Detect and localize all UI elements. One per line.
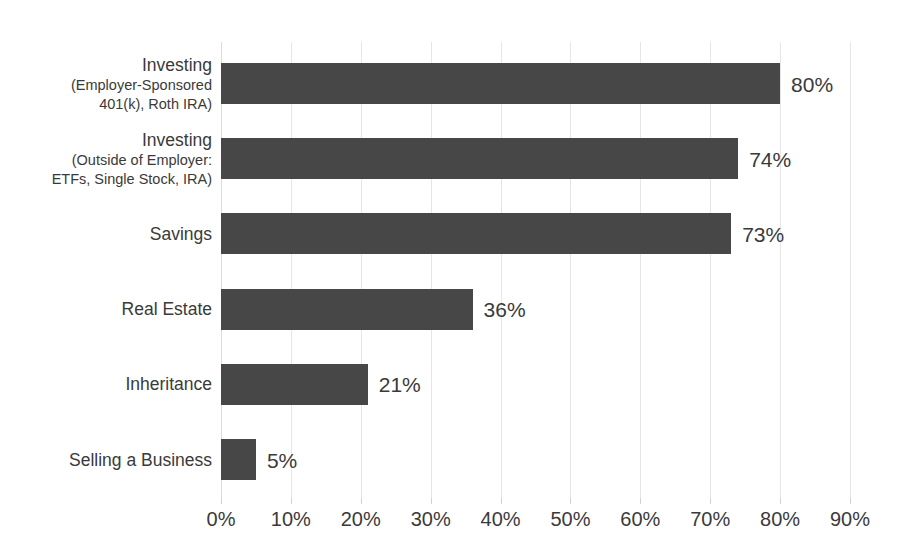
x-tick-mark [431,498,432,504]
category-label-main: Selling a Business [0,449,212,471]
gridline-90pct [850,42,851,498]
category-label: Savings [0,223,212,245]
bar[interactable] [221,439,256,480]
gridline-70pct [710,42,711,498]
x-tick-label: 40% [481,507,521,531]
x-tick-label: 60% [620,507,660,531]
bar[interactable] [221,138,738,179]
x-axis: 0%10%20%30%40%50%60%70%80%90% [221,498,850,538]
bar-row: 73% [221,213,850,254]
bar-value-label: 21% [368,374,421,395]
category-label-main: Investing [0,54,212,76]
category-axis-labels: Investing(Employer-Sponsored401(k), Roth… [0,0,212,550]
category-label: Investing(Outside of Employer:ETFs, Sing… [0,129,212,189]
category-label-sub: 401(k), Roth IRA) [0,95,212,114]
gridline-0pct [221,42,222,498]
bar-row: 74% [221,138,850,179]
category-label-sub: (Outside of Employer: [0,151,212,170]
x-tick-label: 90% [830,507,870,531]
x-tick-mark [570,498,571,504]
bar-row: 80% [221,63,850,104]
category-label-main: Investing [0,129,212,151]
bar[interactable] [221,63,780,104]
category-label-main: Real Estate [0,298,212,320]
gridline-50pct [570,42,571,498]
bar[interactable] [221,213,731,254]
bar-row: 36% [221,289,850,330]
x-tick-label: 0% [207,507,236,531]
gridline-40pct [501,42,502,498]
bar[interactable] [221,364,368,405]
x-tick-label: 50% [550,507,590,531]
bar-row: 21% [221,364,850,405]
bar-value-label: 5% [256,449,297,470]
plot-area: 80%74%73%36%21%5% [221,42,850,498]
gridline-30pct [431,42,432,498]
category-label-main: Savings [0,223,212,245]
bar-value-label: 74% [738,148,791,169]
x-tick-mark [710,498,711,504]
category-label-sub: ETFs, Single Stock, IRA) [0,170,212,189]
bar[interactable] [221,289,473,330]
bar-row: 5% [221,439,850,480]
gridline-20pct [361,42,362,498]
category-label: Inheritance [0,373,212,395]
x-tick-label: 70% [690,507,730,531]
gridline-80pct [780,42,781,498]
x-tick-label: 10% [271,507,311,531]
gridline-10pct [291,42,292,498]
gridline-60pct [640,42,641,498]
x-tick-label: 30% [411,507,451,531]
category-label: Selling a Business [0,449,212,471]
bar-value-label: 36% [473,299,526,320]
x-tick-mark [221,498,222,504]
x-tick-mark [361,498,362,504]
category-label-main: Inheritance [0,373,212,395]
bar-chart: 80%74%73%36%21%5% Investing(Employer-Spo… [0,0,912,550]
category-label: Investing(Employer-Sponsored401(k), Roth… [0,54,212,114]
x-tick-label: 80% [760,507,800,531]
x-tick-mark [850,498,851,504]
x-tick-mark [291,498,292,504]
bar-value-label: 73% [731,223,784,244]
category-label-sub: (Employer-Sponsored [0,76,212,95]
x-tick-mark [501,498,502,504]
bar-value-label: 80% [780,73,833,94]
x-tick-label: 20% [341,507,381,531]
x-tick-mark [640,498,641,504]
x-tick-mark [780,498,781,504]
category-label: Real Estate [0,298,212,320]
